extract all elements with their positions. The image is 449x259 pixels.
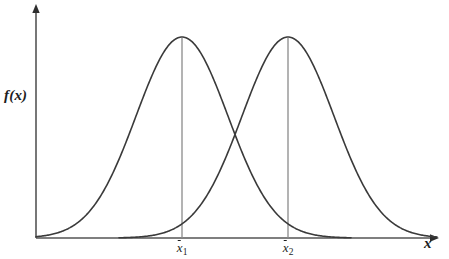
- x-axis: [36, 234, 439, 241]
- tick-xbar1-subscript: 1: [183, 247, 188, 257]
- tick-xbar2-letter: x: [283, 241, 289, 254]
- tick-xbar1-letter: x: [177, 241, 183, 254]
- normal-distributions-figure: f(x) x x1 x2: [0, 0, 449, 259]
- y-axis-label: f(x): [4, 88, 27, 103]
- y-axis-arrowhead: [32, 4, 39, 13]
- distribution-curve-2: [119, 37, 437, 238]
- tick-xbar2-subscript: 2: [289, 247, 294, 257]
- distribution-curve-1: [36, 37, 351, 238]
- plot-area: [0, 0, 449, 259]
- tick-label-xbar1: x1: [177, 241, 188, 255]
- x-axis-label: x: [424, 236, 432, 251]
- tick-label-xbar2: x2: [283, 241, 294, 255]
- y-axis: [32, 4, 39, 238]
